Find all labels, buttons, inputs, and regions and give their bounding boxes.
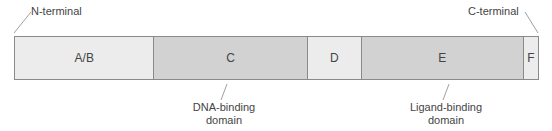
dna-binding-line2: domain: [189, 114, 259, 127]
ligand-binding-line1: Ligand-binding: [406, 101, 486, 114]
segment-ab: A/B: [15, 37, 154, 79]
n-terminal-label: N-terminal: [31, 5, 82, 18]
receptor-domain-bar: A/B C D E F: [14, 36, 539, 80]
segment-f: F: [524, 37, 538, 79]
ligand-binding-domain-label: Ligand-binding domain: [406, 101, 486, 127]
segment-e: E: [362, 37, 524, 79]
c-terminal-label: C-terminal: [468, 5, 519, 18]
ligand-binding-line2: domain: [406, 114, 486, 127]
segment-c: C: [154, 37, 307, 79]
dna-binding-line1: DNA-binding: [189, 101, 259, 114]
segment-d: D: [308, 37, 362, 79]
dna-binding-domain-label: DNA-binding domain: [189, 101, 259, 127]
